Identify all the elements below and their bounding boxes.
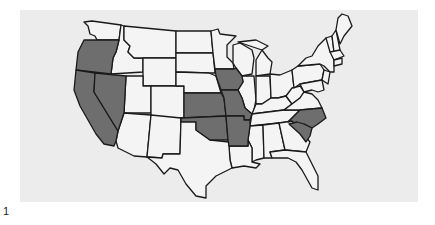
- state-washington: [84, 21, 121, 40]
- state-minnesota: [211, 29, 236, 69]
- us-states-map: [0, 0, 435, 225]
- figure-number-label: 1: [3, 205, 9, 217]
- state-north-dakota: [176, 31, 213, 53]
- state-colorado: [151, 86, 184, 118]
- state-kansas-shaded: [184, 93, 226, 118]
- state-new-mexico: [147, 115, 181, 158]
- state-maine: [336, 14, 352, 44]
- state-iowa-shaded: [215, 68, 243, 90]
- state-wyoming: [143, 58, 176, 86]
- state-new-jersey: [322, 70, 330, 84]
- state-south-dakota: [176, 53, 215, 73]
- state-montana: [124, 26, 176, 58]
- state-arkansas-shaded: [226, 116, 250, 146]
- state-florida: [270, 150, 318, 190]
- state-connecticut: [334, 58, 342, 66]
